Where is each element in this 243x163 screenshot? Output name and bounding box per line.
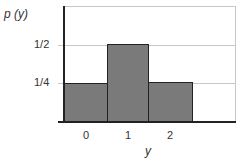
x-axis-label: y: [145, 144, 151, 158]
xtick-label-2: 2: [167, 129, 173, 141]
plot-right-border: [235, 6, 236, 122]
xtick-label-1: 1: [125, 129, 131, 141]
x-axis: [58, 121, 236, 123]
y-axis-label: p (y): [4, 7, 28, 21]
y-axis: [63, 6, 65, 123]
ytick-label-half: 1/2: [34, 38, 49, 50]
ytick-label-quarter: 1/4: [34, 76, 49, 88]
bar-2: [148, 82, 193, 123]
bar-1: [107, 44, 149, 123]
gridline-top: [64, 6, 236, 7]
xtick-label-0: 0: [83, 129, 89, 141]
bar-0: [64, 83, 108, 123]
